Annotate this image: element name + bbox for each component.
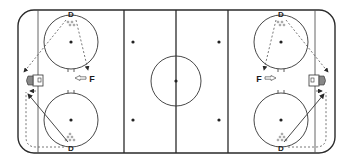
- puck-pile-icon: [67, 21, 75, 26]
- left-goal-net-icon: [27, 75, 44, 86]
- pass-path: [24, 20, 66, 72]
- left-bottom-faceoff-dot: [69, 118, 72, 121]
- skate-path: [26, 92, 64, 147]
- right-goal-net-icon: [309, 75, 326, 86]
- left-top-faceoff-dot: [69, 40, 72, 43]
- puck-pile-icon: [277, 21, 285, 26]
- neutral-dot: [217, 40, 220, 43]
- skate-path: [288, 92, 326, 147]
- pass-path: [286, 20, 328, 72]
- player-d-right-bottom: D: [278, 144, 284, 153]
- left-arrow-icon: [75, 76, 86, 81]
- player-d-left-bottom: D: [68, 144, 74, 153]
- right-arrow-icon: [265, 76, 276, 81]
- neutral-dot: [131, 40, 134, 43]
- player-d-left-top: D: [68, 10, 74, 19]
- right-top-faceoff-dot: [279, 40, 282, 43]
- player-f-left: F: [89, 74, 95, 84]
- skate-path: [76, 20, 88, 70]
- neutral-dot: [131, 118, 134, 121]
- hockey-rink-diagram: D D D D F F: [0, 0, 351, 161]
- neutral-dot: [217, 118, 220, 121]
- player-d-right-top: D: [278, 10, 284, 19]
- player-f-right: F: [256, 74, 262, 84]
- skate-path: [264, 20, 276, 70]
- center-faceoff-dot: [174, 79, 177, 82]
- right-bottom-faceoff-dot: [279, 118, 282, 121]
